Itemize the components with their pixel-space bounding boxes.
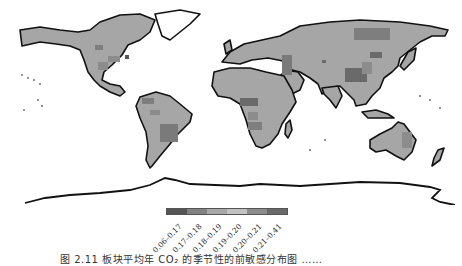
madagascar <box>285 120 292 138</box>
africa <box>212 68 296 148</box>
new-zealand <box>432 148 444 166</box>
greenland <box>155 10 200 40</box>
legend-bin <box>227 209 247 214</box>
legend-colorbar <box>166 208 288 215</box>
legend-bin <box>267 209 287 214</box>
figure-caption: 图 2.11 板块平均年 CO₂ 的季节性的前敏感分布图 …… <box>60 251 323 266</box>
antarctica-coastline <box>25 178 455 205</box>
legend-bin <box>167 209 187 214</box>
india <box>322 86 342 108</box>
world-map <box>0 0 462 205</box>
indonesia <box>362 110 394 118</box>
legend-bin <box>187 209 207 214</box>
legend-bin <box>247 209 267 214</box>
legend-bin <box>207 209 227 214</box>
